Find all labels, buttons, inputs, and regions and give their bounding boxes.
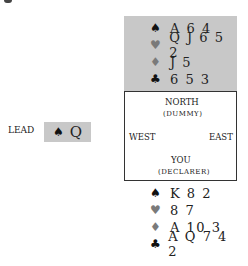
spade-icon: ♠ — [150, 186, 170, 200]
north-label: NORTH — [165, 97, 199, 107]
south-clubs-cards: A Q 7 4 2 — [168, 229, 237, 259]
club-icon: ♣ — [150, 72, 170, 86]
lead-card-rank: Q — [70, 123, 82, 141]
club-icon: ♣ — [150, 237, 168, 251]
north-hand-panel: ♠ A 6 4 ♥ Q J 6 5 2 ♦ J 5 ♣ 6 5 3 — [124, 16, 237, 91]
diamond-icon: ♦ — [150, 220, 170, 234]
north-clubs-cards: 6 5 3 — [170, 72, 211, 87]
you-label: YOU — [171, 155, 191, 165]
north-hearts-row: ♥ Q J 6 5 2 — [150, 36, 237, 54]
west-label: WEST — [129, 132, 155, 142]
table-compass: NORTH (DUMMY) WEST EAST YOU (DECLARER) — [124, 91, 237, 181]
spade-icon: ♠ — [150, 21, 170, 35]
south-clubs-row: ♣ A Q 7 4 2 — [150, 235, 237, 253]
east-label: EAST — [209, 132, 233, 142]
south-spades-row: ♠ K 8 2 — [150, 184, 212, 202]
diamond-icon: ♦ — [150, 55, 170, 69]
lead-label: LEAD — [8, 125, 34, 135]
corner-fragment — [4, 0, 12, 3]
lead-card: ♠ Q — [44, 122, 91, 142]
south-spades-cards: K 8 2 — [170, 186, 212, 201]
declarer-label: (DECLARER) — [158, 168, 210, 176]
south-hearts-cards: 8 7 — [170, 203, 195, 218]
spade-icon: ♠ — [53, 125, 64, 139]
north-diamonds-cards: J 5 — [170, 55, 192, 70]
north-diamonds-row: ♦ J 5 — [150, 53, 192, 71]
dummy-label: (DUMMY) — [163, 110, 202, 118]
heart-icon: ♥ — [150, 38, 169, 52]
south-hearts-row: ♥ 8 7 — [150, 201, 195, 219]
heart-icon: ♥ — [150, 203, 170, 217]
north-clubs-row: ♣ 6 5 3 — [150, 70, 211, 88]
south-hand-panel: ♠ K 8 2 ♥ 8 7 ♦ A 10 3 ♣ A Q 7 4 2 — [124, 184, 237, 264]
